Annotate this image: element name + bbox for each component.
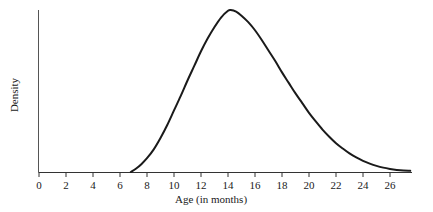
axis-lines <box>39 10 413 173</box>
x-tick-label: 22 <box>331 180 342 191</box>
x-tick-label: 8 <box>144 180 150 191</box>
x-tick-label: 2 <box>63 180 69 191</box>
x-axis-title: Age (in months) <box>175 194 247 205</box>
x-tick-label: 0 <box>36 180 42 191</box>
density-chart: 02468101214161820222426 Age (in months) … <box>0 0 433 212</box>
x-tick-label: 14 <box>223 180 234 191</box>
x-tick-label: 4 <box>90 180 96 191</box>
x-tick-label: 16 <box>250 180 261 191</box>
x-tick-label: 10 <box>169 180 180 191</box>
x-tick-label: 26 <box>385 180 396 191</box>
x-tick-label: 18 <box>277 180 288 191</box>
x-tick-label: 12 <box>196 180 207 191</box>
x-tick-label: 20 <box>304 180 315 191</box>
x-tick-label: 6 <box>117 180 123 191</box>
density-curve <box>131 10 410 172</box>
y-axis-title: Density <box>9 78 20 112</box>
x-tick-label: 24 <box>358 180 369 191</box>
